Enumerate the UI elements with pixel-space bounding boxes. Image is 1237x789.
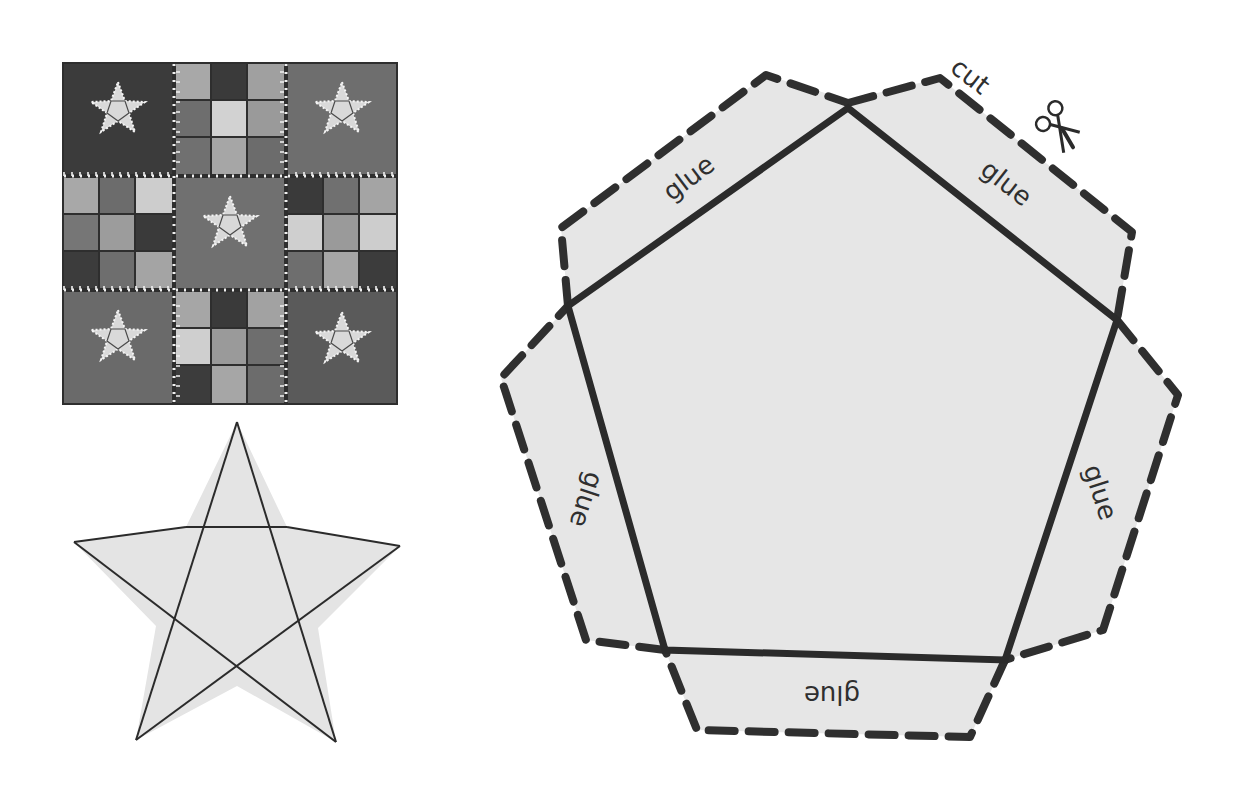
- diagram-canvas: glue glue glue glue glue cut: [0, 0, 1237, 789]
- pentagon-template: glue glue glue glue glue cut: [501, 51, 1178, 737]
- nine-patch-block-right: [288, 178, 396, 288]
- nine-patch-block-bottom: [176, 292, 284, 403]
- nine-patch-block-top: [176, 64, 284, 174]
- scissors-icon: [1031, 98, 1089, 155]
- nine-patch-block-left: [64, 178, 172, 288]
- glue-label-bottom: glue: [804, 680, 860, 710]
- star-template: [74, 422, 400, 742]
- quilt: [62, 62, 398, 405]
